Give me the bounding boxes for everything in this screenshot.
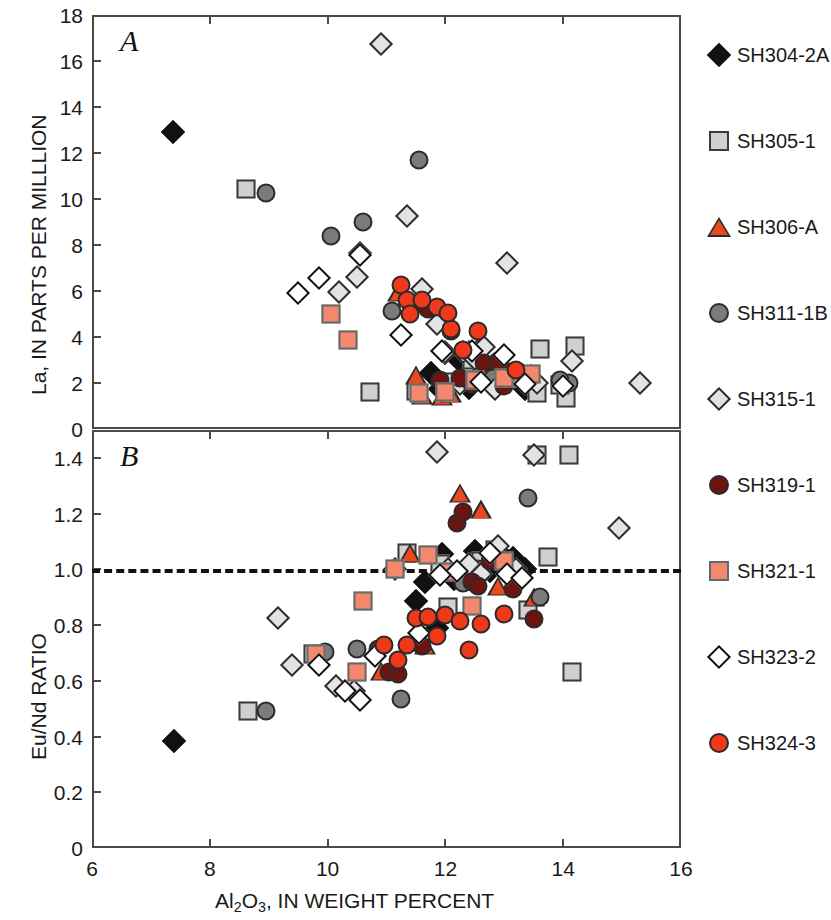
- legend-item-label: SH311-1B: [737, 302, 828, 325]
- y-tick-panel-b: [92, 791, 101, 793]
- x-tick-label: 10: [316, 858, 339, 879]
- legend-item-sh306-a[interactable]: SH306-A: [706, 212, 818, 242]
- data-point-b-sh311-1b: [256, 702, 275, 721]
- y-tick-label-panel-b: 1.2: [54, 503, 83, 524]
- diamond-marker-icon: [706, 42, 732, 68]
- circle-marker-icon: [706, 730, 732, 756]
- data-point-a-sh321-1: [436, 383, 455, 402]
- data-point-b-sh324-3: [495, 604, 514, 623]
- diamond-marker-icon: [706, 386, 732, 412]
- circle-marker-icon: [706, 472, 732, 498]
- data-point-b-sh324-3: [374, 635, 393, 654]
- y-tick-label-panel-b: 0.2: [54, 782, 83, 803]
- y-tick-label-panel-b: 1.4: [54, 447, 83, 468]
- y-tick-label-panel-a: 14: [60, 97, 83, 118]
- legend-item-label: SH304-2A: [737, 44, 829, 67]
- legend-item-sh324-3[interactable]: SH324-3: [706, 728, 816, 758]
- data-point-b-sh305-1: [560, 446, 579, 465]
- data-point-a-sh324-3: [439, 303, 458, 322]
- y-tick-label-panel-a: 8: [71, 235, 83, 256]
- data-point-b-sh324-3: [471, 614, 490, 633]
- circle-marker-icon: [706, 300, 732, 326]
- legend-item-label: SH321-1: [737, 560, 816, 583]
- x-tick-panel-b-top: [209, 430, 211, 439]
- x-tick-label: 6: [86, 858, 98, 879]
- legend-item-sh305-1[interactable]: SH305-1: [706, 126, 816, 156]
- x-tick-panel-a-top: [327, 15, 329, 24]
- y-tick-panel-a: [92, 106, 101, 108]
- data-point-b-sh321-1: [386, 560, 405, 579]
- x-tick-panel-b-top: [327, 430, 329, 439]
- data-point-b-sh305-1: [563, 663, 582, 682]
- y-tick-label-panel-b: 0: [71, 838, 83, 859]
- x-tick-label: 16: [669, 858, 692, 879]
- panel-a-letter: A: [120, 26, 138, 56]
- data-point-b-sh306-a: [470, 500, 492, 519]
- data-point-a-sh305-1: [361, 383, 380, 402]
- y-tick-panel-a: [92, 290, 101, 292]
- x-tick-panel-b-bottom: [327, 839, 329, 848]
- y-axis-title-panel-b: Eu/Nd RATIO: [28, 633, 49, 760]
- x-tick-panel-a-top: [444, 15, 446, 24]
- data-point-a-sh324-3: [412, 291, 431, 310]
- data-point-b-sh305-1: [539, 547, 558, 566]
- y-tick-label-panel-a: 12: [60, 143, 83, 164]
- y-tick-label-panel-b: 1.0: [54, 559, 83, 580]
- figure-root: A B La, IN PARTS PER MILLLION Eu/Nd RATI…: [0, 0, 831, 920]
- y-tick-panel-b: [92, 457, 101, 459]
- x-tick-panel-a-top: [209, 15, 211, 24]
- x-tick-panel-b-bottom: [444, 839, 446, 848]
- data-point-a-sh324-3: [454, 340, 473, 359]
- data-point-b-sh324-3: [451, 611, 470, 630]
- y-tick-label-panel-b: 0.6: [54, 670, 83, 691]
- y-tick-panel-b: [92, 680, 101, 682]
- y-tick-panel-b: [92, 513, 101, 515]
- square-marker-icon: [706, 558, 732, 584]
- y-tick-label-panel-a: 6: [71, 281, 83, 302]
- x-tick-panel-b-bottom: [209, 839, 211, 848]
- legend-item-sh319-1[interactable]: SH319-1: [706, 470, 816, 500]
- data-point-b-sh311-1b: [392, 689, 411, 708]
- x-tick-panel-b-bottom: [562, 839, 564, 848]
- legend-item-label: SH324-3: [737, 732, 816, 755]
- x-tick-label: 8: [204, 858, 216, 879]
- data-point-b-sh306-a: [449, 483, 471, 502]
- y-tick-panel-a: [92, 244, 101, 246]
- data-point-b-sh321-1: [348, 663, 367, 682]
- data-point-b-sh324-3: [427, 627, 446, 646]
- diamond-marker-icon: [706, 644, 732, 670]
- square-marker-icon: [706, 128, 732, 154]
- data-point-a-sh305-1: [237, 179, 256, 198]
- x-tick-label: 12: [434, 858, 457, 879]
- y-tick-panel-a: [92, 198, 101, 200]
- data-point-b-sh311-1b: [518, 489, 537, 508]
- data-point-b-sh324-3: [418, 607, 437, 626]
- triangle-marker-icon: [706, 214, 732, 240]
- legend-item-label: SH305-1: [737, 130, 816, 153]
- legend-item-sh304-2a[interactable]: SH304-2A: [706, 40, 829, 70]
- data-point-b-sh324-3: [459, 641, 478, 660]
- y-tick-label-panel-a: 0: [71, 419, 83, 440]
- legend-item-sh321-1[interactable]: SH321-1: [706, 556, 816, 586]
- x-tick-panel-b-top: [562, 430, 564, 439]
- y-tick-panel-b: [92, 624, 101, 626]
- data-point-a-sh321-1: [321, 305, 340, 324]
- data-point-a-sh311-1b: [409, 150, 428, 169]
- data-point-b-sh321-1: [353, 592, 372, 611]
- y-tick-panel-a: [92, 382, 101, 384]
- data-point-a-sh324-3: [507, 361, 526, 380]
- data-point-a-sh321-1: [339, 331, 358, 350]
- y-tick-label-panel-b: 0.8: [54, 615, 83, 636]
- legend: SH304-2ASH305-1SH306-ASH311-1BSH315-1SH3…: [706, 0, 831, 830]
- data-point-b-sh324-3: [398, 635, 417, 654]
- data-point-a-sh305-1: [530, 339, 549, 358]
- y-tick-panel-a: [92, 336, 101, 338]
- legend-item-sh311-1b[interactable]: SH311-1B: [706, 298, 828, 328]
- data-point-a-sh324-3: [468, 322, 487, 341]
- data-point-b-sh319-1: [468, 577, 487, 596]
- legend-item-sh315-1[interactable]: SH315-1: [706, 384, 816, 414]
- data-point-b-sh305-1: [239, 702, 258, 721]
- legend-item-sh323-2[interactable]: SH323-2: [706, 642, 816, 672]
- legend-item-label: SH315-1: [737, 388, 816, 411]
- y-tick-label-panel-a: 18: [60, 5, 83, 26]
